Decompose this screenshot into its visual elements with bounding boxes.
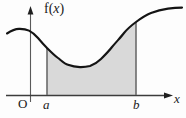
integral-area-figure: f(x) x O a b [0, 0, 186, 118]
x-axis-arrow-icon [164, 92, 173, 98]
shaded-area-under-curve [47, 22, 136, 95]
y-axis-function-label: f(x) [44, 2, 64, 16]
figure-canvas [0, 0, 186, 118]
function-paren-close: ) [60, 1, 65, 16]
x-axis-label: x [174, 92, 180, 105]
y-axis-arrow-icon [28, 6, 34, 15]
upper-limit-label-b: b [133, 98, 140, 111]
function-curve [7, 8, 182, 68]
origin-label: O [18, 97, 27, 110]
lower-limit-label-a: a [43, 98, 50, 111]
